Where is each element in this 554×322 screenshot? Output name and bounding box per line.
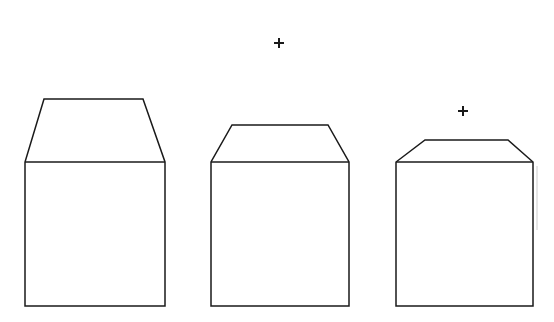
shape-right-outline [396,140,533,306]
shape-middle-outline [211,125,349,306]
shape-figure-svg [0,0,554,322]
figure-canvas [0,0,554,322]
shape-left-outline [25,99,165,306]
